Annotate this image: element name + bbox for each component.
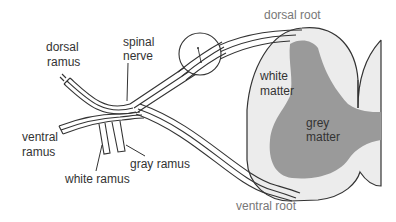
dorsal-root-ganglion [178, 33, 226, 80]
spinal-nerve [60, 74, 136, 114]
label-gray-ramus: gray ramus [130, 157, 190, 171]
label-spinal-nerve-line1: spinal [123, 35, 154, 49]
label-dorsal-ramus-line1: dorsal [46, 40, 79, 54]
label-white-ramus: white ramus [64, 172, 130, 186]
spinal-cord [247, 28, 381, 201]
label-dorsal-ramus-line2: ramus [47, 55, 80, 69]
spinal-nerve-leader [127, 63, 128, 101]
label-ventral-ramus-line2: ramus [22, 145, 55, 159]
label-ventral-ramus-line1: ventral [22, 130, 58, 144]
ventral-ramus [59, 112, 144, 134]
white-ramus-leader [96, 145, 102, 171]
gray-ramus-leader [126, 145, 145, 156]
label-white-matter-line2: matter [260, 84, 294, 98]
spinal-nerve-diagram: dorsal root dorsal ramus spinal nerve wh… [0, 0, 396, 222]
gray-ramus-branch [112, 121, 125, 152]
label-ventral-root: ventral root [236, 199, 297, 213]
label-grey-matter-line1: grey [306, 116, 329, 130]
label-grey-matter-line2: matter [306, 130, 340, 144]
label-white-matter-line1: white [259, 69, 288, 83]
label-dorsal-root: dorsal root [264, 8, 321, 22]
label-spinal-nerve-line2: nerve [123, 49, 153, 63]
